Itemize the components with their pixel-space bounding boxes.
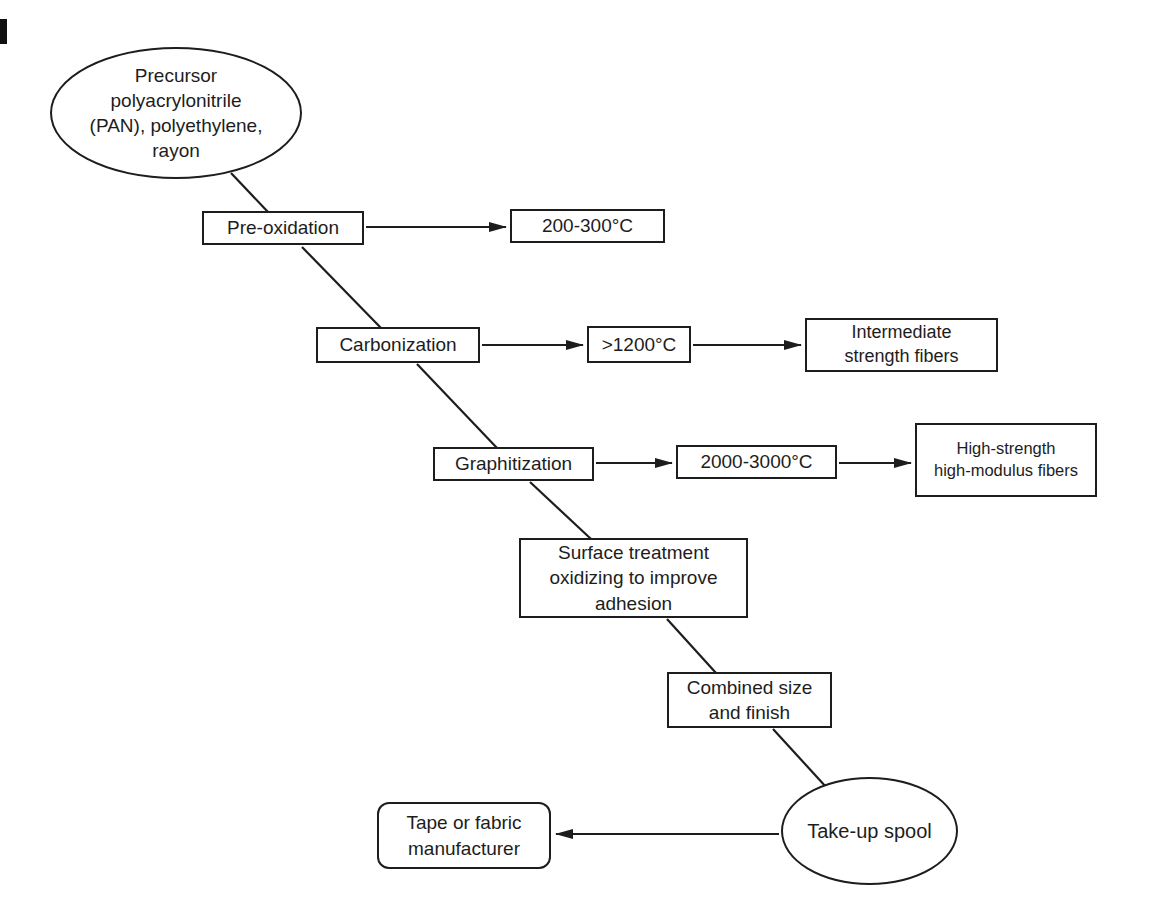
- node-take-up-spool: Take-up spool: [781, 777, 958, 885]
- node-carbonization: Carbonization: [316, 327, 480, 363]
- node-pre-oxidation: Pre-oxidation: [202, 211, 364, 245]
- connector-carbonization-to-graphitization: [417, 364, 497, 448]
- connector-graphitization-to-surface-treatment: [530, 482, 591, 539]
- scan-artifact: [0, 19, 7, 44]
- node-intermediate-strength-fibers: Intermediate strength fibers: [805, 318, 998, 372]
- node-temperature-200-300: 200-300°C: [510, 209, 665, 243]
- flowchart-carbon-fiber-process: Precursor polyacrylonitrile (PAN), polye…: [0, 0, 1150, 908]
- connector-preoxidation-to-carbonization: [302, 247, 381, 328]
- node-precursor: Precursor polyacrylonitrile (PAN), polye…: [50, 47, 302, 179]
- node-temperature-2000-3000: 2000-3000°C: [676, 445, 837, 479]
- node-tape-or-fabric-manufacturer: Tape or fabric manufacturer: [377, 802, 551, 869]
- node-surface-treatment: Surface treatment oxidizing to improve a…: [519, 538, 748, 618]
- connector-combined-size-to-takeup-spool: [773, 729, 827, 788]
- node-temperature-1200: >1200°C: [587, 326, 691, 363]
- node-graphitization: Graphitization: [433, 447, 594, 481]
- connector-precursor-to-preoxidation: [231, 173, 268, 212]
- node-high-modulus-fibers: High-strength high-modulus fibers: [915, 423, 1097, 497]
- node-combined-size-and-finish: Combined size and finish: [667, 672, 832, 728]
- connector-surface-treatment-to-combined-size: [667, 619, 716, 673]
